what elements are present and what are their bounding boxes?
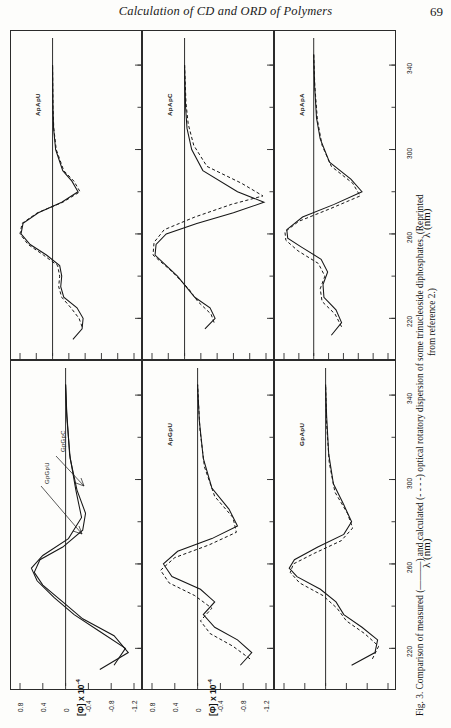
plot-panel-gpapu: GpApU220260300340λ (nm): [274, 360, 396, 690]
panel-label: ApApA: [298, 93, 305, 116]
figure-caption: Fig. 3. Comparison of measured (———) and…: [403, 26, 449, 726]
y-tick-label: 0: [63, 708, 70, 712]
y-tick-label: 0: [195, 708, 202, 712]
panel-label: ApApC: [166, 93, 173, 116]
plot-panel-apapa: ApApA220260300340λ (nm): [274, 30, 396, 360]
curve-calculated-1: [161, 385, 250, 659]
caption-line-1: Fig. 3. Comparison of measured (———) and…: [415, 194, 425, 716]
y-tick-label: 0.4: [40, 703, 47, 712]
plot-canvas: [274, 30, 396, 360]
plot-panel-apgpu: ApGpU: [142, 360, 274, 690]
curve-measured-0: [34, 385, 128, 670]
y-tick-label: -0.8: [240, 700, 247, 712]
y-axis-title: [Φ] x 10-4: [75, 679, 86, 716]
y-tick-label: -0.4: [85, 700, 92, 712]
figure-3: ApApUApApCApApA220260300340λ (nm)GpGpCGp…: [2, 28, 400, 688]
panel-label: ApGpU: [166, 423, 173, 446]
callout-arrow-gpgpc: [56, 456, 84, 486]
plot-canvas: [10, 30, 142, 360]
y-tick-label: -0.8: [108, 700, 115, 712]
curve-label-gpgpu: GpGpU: [44, 462, 50, 484]
curve-calculated-1: [20, 65, 82, 327]
plot-canvas: [10, 360, 142, 690]
plot-canvas: [274, 360, 396, 690]
y-axis-title: [Φ] x 10-4: [207, 679, 218, 716]
panel-label: ApApU: [34, 93, 41, 116]
panel-label: GpApU: [298, 423, 305, 446]
curve-label-gpgpc: GpGpC: [60, 430, 66, 452]
plot-panel-apapu: ApApU: [10, 30, 142, 360]
running-head: Calculation of CD and ORD of Polymers 69: [0, 4, 451, 26]
curve-measured-0: [163, 385, 251, 666]
plot-canvas: [142, 30, 274, 360]
y-tick-label: -1.2: [131, 700, 138, 712]
y-tick-label: -0.4: [217, 700, 224, 712]
callout-arrow-gpgpu: [41, 486, 82, 534]
y-tick-label: 0.8: [149, 703, 156, 712]
plot-canvas: [142, 360, 274, 690]
curve-measured-1: [31, 385, 125, 666]
caption-line-2: from reference 2.): [427, 288, 437, 356]
plot-panel-apapc: ApApC: [142, 30, 274, 360]
curve-calculated-1: [285, 55, 360, 327]
running-head-title: Calculation of CD and ORD of Polymers: [0, 4, 451, 19]
plot-panel-gpgpcgpgpu: GpGpCGpGpU: [10, 360, 142, 690]
y-tick-label: 0.8: [17, 703, 24, 712]
panel-grid: ApApUApApCApApA220260300340λ (nm)GpGpCGp…: [2, 28, 400, 688]
page-number: 69: [430, 4, 443, 20]
y-tick-label: -1.2: [263, 700, 270, 712]
curve-measured-0: [21, 65, 83, 339]
y-tick-label: 0.4: [172, 703, 179, 712]
